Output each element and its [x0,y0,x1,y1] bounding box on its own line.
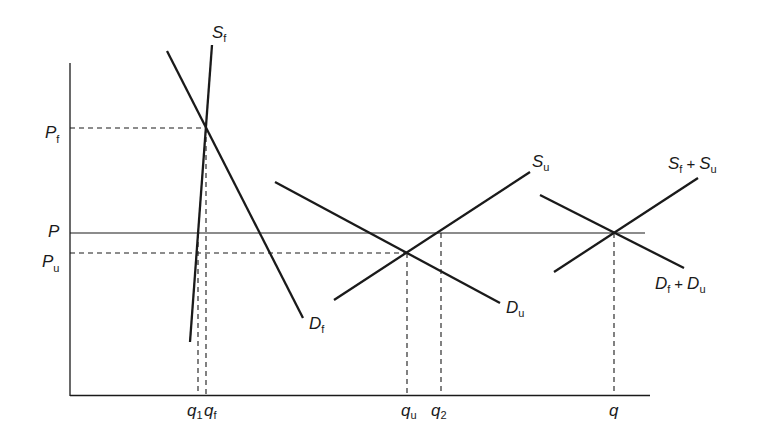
label-Pu: Pu [42,252,59,274]
label-Su: Su [532,152,549,173]
label-Df: Df [309,314,325,335]
supply-demand-diagram: Pf P Pu q1 qf qu q2 q Sf Df Su Du Sf+Su … [0,0,757,442]
label-q1: q1 [187,401,203,421]
curve-Sf-plus-Su [554,178,698,272]
label-Df-plus-Du: Df+Du [655,274,706,295]
label-Sf-plus-Su: Sf+Su [668,154,717,175]
curve-Su [334,172,530,300]
label-Pf: Pf [45,123,60,145]
curve-Du [275,182,500,303]
curve-Df [167,51,303,318]
label-q: q [609,401,619,420]
label-Sf: Sf [212,23,227,44]
curve-Df-plus-Du [540,195,684,268]
curve-Sf [190,45,212,342]
label-qu: qu [401,401,417,421]
label-Du: Du [506,298,524,319]
label-P: P [48,222,60,241]
label-q2: q2 [431,401,447,421]
label-qf: qf [204,401,217,421]
